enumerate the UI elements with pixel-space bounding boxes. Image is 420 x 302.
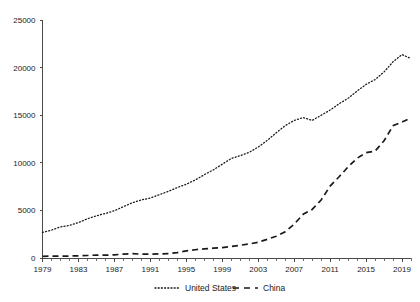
x-tick-label: 2015 — [357, 265, 375, 274]
x-tick-label: 1999 — [213, 265, 231, 274]
chart-legend: United States China — [155, 283, 285, 293]
y-tick-label: 5000 — [18, 206, 36, 215]
x-tick-label: 2007 — [285, 265, 303, 274]
x-axis-ticks: 1979198319871991199519992003200720112015… — [34, 258, 412, 274]
y-tick-label: 25000 — [13, 16, 36, 25]
series-line-china — [43, 118, 412, 256]
line-chart: 0500010000150002000025000 19791983198719… — [0, 0, 420, 302]
y-tick-label: 10000 — [13, 159, 36, 168]
legend-label-united-states: United States — [185, 283, 236, 293]
x-tick-label: 2019 — [393, 265, 411, 274]
x-tick-label: 1991 — [141, 265, 159, 274]
x-tick-label: 1979 — [34, 265, 52, 274]
y-tick-label: 15000 — [13, 111, 36, 120]
x-tick-label: 1987 — [106, 265, 124, 274]
x-tick-label: 1983 — [70, 265, 88, 274]
legend-label-china: China — [263, 283, 285, 293]
y-tick-label: 0 — [31, 254, 36, 263]
y-tick-label: 20000 — [13, 64, 36, 73]
series-line-united-states — [43, 55, 412, 233]
x-tick-label: 2011 — [322, 265, 340, 274]
chart-canvas: 0500010000150002000025000 19791983198719… — [0, 0, 420, 302]
x-tick-label: 1995 — [177, 265, 195, 274]
y-axis-ticks: 0500010000150002000025000 — [13, 16, 42, 263]
x-tick-label: 2003 — [249, 265, 267, 274]
